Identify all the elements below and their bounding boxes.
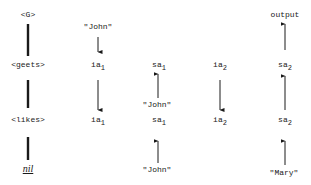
diagram-connectors — [0, 0, 311, 185]
